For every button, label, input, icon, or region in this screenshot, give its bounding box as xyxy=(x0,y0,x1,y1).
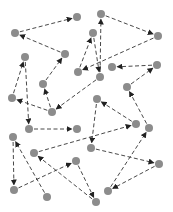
edge-H-to-P xyxy=(80,38,91,67)
edge-A-to-B xyxy=(20,18,72,31)
edge-layer xyxy=(13,16,155,199)
node-T xyxy=(123,83,131,91)
node-B xyxy=(73,13,81,21)
node-AC xyxy=(30,149,38,157)
directed-graph-diagram xyxy=(0,0,173,212)
node-AH xyxy=(104,187,112,195)
node-AA xyxy=(87,144,95,152)
edge-Y-to-V xyxy=(102,102,132,121)
node-AG xyxy=(155,160,163,168)
edge-C-to-D xyxy=(106,16,153,34)
edge-AF-to-AB xyxy=(16,142,45,193)
node-E xyxy=(61,50,69,58)
node-D xyxy=(154,32,162,40)
edge-AB-to-AE xyxy=(13,142,14,185)
node-layer xyxy=(8,10,163,206)
node-Q xyxy=(96,73,104,81)
edge-E-to-A xyxy=(20,35,60,52)
edge-F2-to-F xyxy=(14,62,24,93)
node-Z xyxy=(145,124,153,132)
node-F xyxy=(21,53,29,61)
node-S xyxy=(153,61,161,69)
node-X xyxy=(25,125,33,133)
edge-Z-to-T xyxy=(130,92,147,124)
node-U xyxy=(48,108,56,116)
edge-AG-to-AH xyxy=(113,166,155,188)
edge-AD-to-AI xyxy=(78,166,93,198)
node-AB xyxy=(9,133,17,141)
node-Y xyxy=(132,120,140,128)
edge-U-to-F2 xyxy=(17,100,47,111)
edge-AC-to-Y xyxy=(39,126,131,152)
edge-U-to-G xyxy=(45,89,51,107)
node-AE xyxy=(10,186,18,194)
node-AF xyxy=(43,193,51,201)
node-AD xyxy=(72,157,80,165)
node-F2 xyxy=(8,94,16,102)
node-AI xyxy=(92,198,100,206)
node-P xyxy=(89,29,97,37)
edge-F-to-X xyxy=(25,62,28,124)
node-C xyxy=(97,10,105,18)
node-H xyxy=(74,68,82,76)
node-W xyxy=(73,125,81,133)
edge-AE-to-AD xyxy=(19,163,72,188)
edge-P-to-Q xyxy=(94,38,99,72)
edge-S-to-R xyxy=(118,65,153,67)
node-G xyxy=(39,80,47,88)
edge-AA-to-AG xyxy=(96,149,154,163)
node-V xyxy=(93,95,101,103)
edge-D-to-H xyxy=(83,38,153,70)
edge-G-to-E xyxy=(46,58,62,80)
edge-Q-to-U xyxy=(56,80,96,109)
node-A xyxy=(11,29,19,37)
edge-Q-to-C xyxy=(100,20,101,73)
edge-T-to-S xyxy=(131,68,153,84)
node-R xyxy=(108,63,116,71)
